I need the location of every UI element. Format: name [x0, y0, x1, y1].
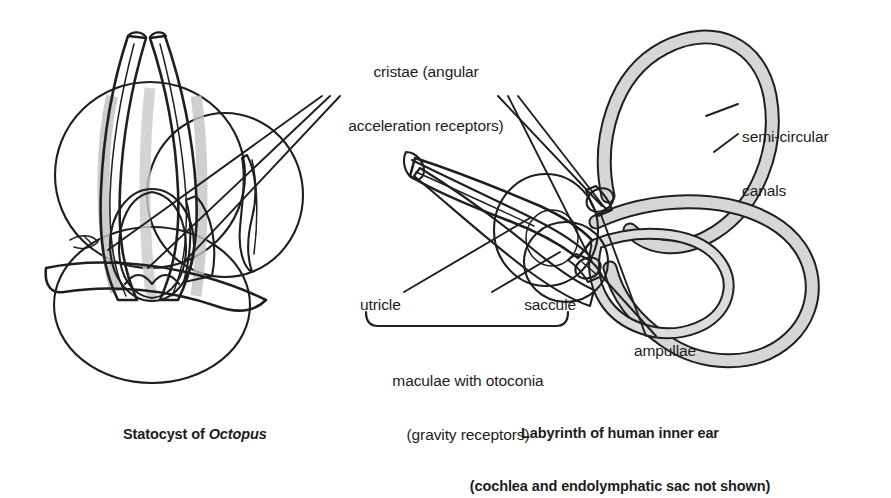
label-maculae-line1: maculae with otoconia [337, 372, 599, 390]
label-saccule: saccule [524, 296, 576, 314]
caption-labyrinth-line1: Labyrinth of human inner ear [440, 425, 800, 443]
caption-octopus-prefix: Statocyst of [123, 426, 209, 442]
label-cristae-line1: cristae (angular [310, 63, 542, 81]
caption-octopus-species: Octopus [209, 426, 267, 442]
label-utricle: utricle [360, 296, 401, 314]
label-cristae-line2: acceleration receptors) [310, 117, 542, 135]
label-ampullae: ampullae [634, 342, 744, 360]
octopus-nerve-band [46, 262, 266, 310]
caption-labyrinth: Labyrinth of human inner ear (cochlea an… [440, 390, 800, 498]
caption-octopus: Statocyst of Octopus [52, 408, 322, 461]
octopus-statocyst-illustration [46, 32, 303, 383]
label-utricle-saccule-row: utricle saccule [360, 296, 576, 314]
caption-labyrinth-line2: (cochlea and endolymphatic sac not shown… [440, 478, 800, 496]
label-semicircular-line2: canals [742, 182, 882, 200]
label-semicircular-canals: semi-circular canals [742, 92, 882, 236]
label-cristae: cristae (angular acceleration receptors) [310, 27, 542, 171]
label-semicircular-line1: semi-circular [742, 128, 882, 146]
